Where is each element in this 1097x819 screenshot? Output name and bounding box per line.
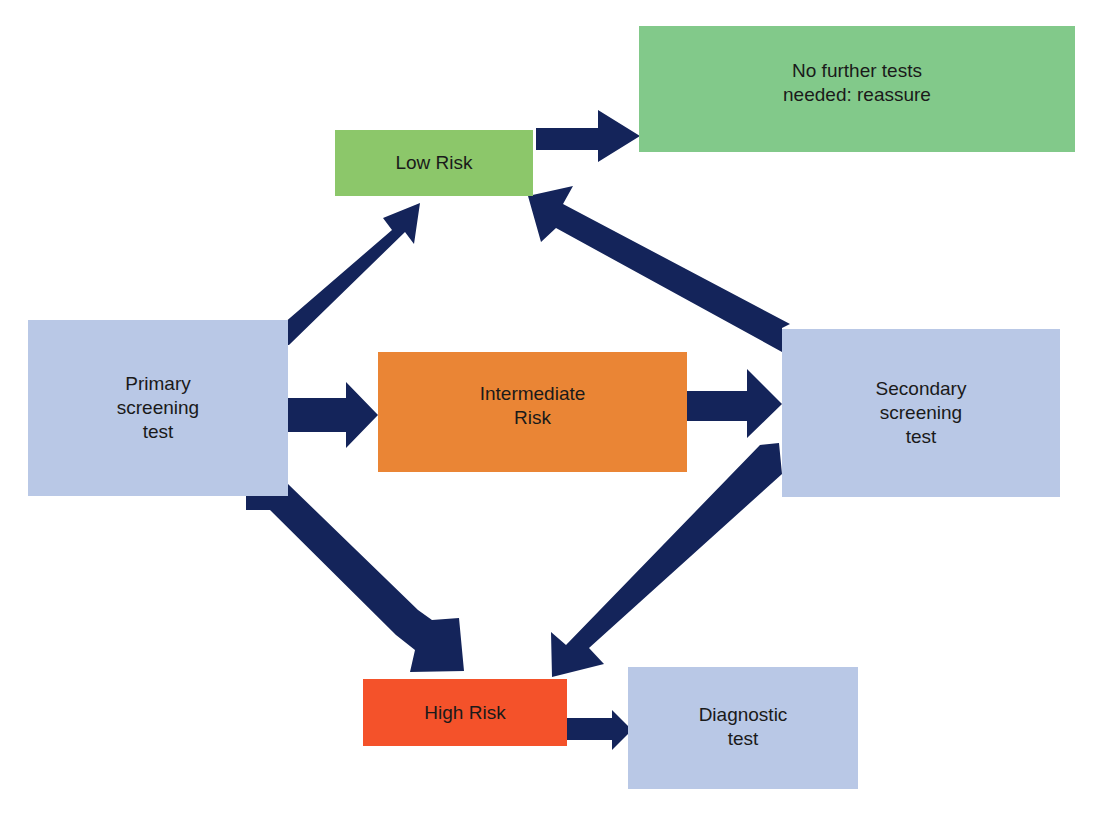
arrow-low-risk-to-reassure (536, 110, 640, 162)
node-intermediate-risk: Intermediate Risk (378, 352, 687, 472)
arrow-primary-to-low-risk (276, 203, 420, 345)
arrow-primary-to-high-risk (246, 484, 464, 672)
node-diagnostic-test-label: Diagnostic test (699, 703, 788, 751)
node-diagnostic-test: Diagnostic test (628, 667, 858, 789)
node-high-risk: High Risk (363, 679, 567, 746)
arrow-secondary-to-low-risk (528, 186, 790, 352)
node-high-risk-label: High Risk (424, 701, 505, 725)
node-primary-screening-test-label: Primary screening test (117, 372, 199, 444)
node-no-further-tests: No further tests needed: reassure (639, 26, 1075, 152)
node-primary-screening-test: Primary screening test (28, 320, 288, 496)
screening-flow-diagram: Low Risk No further tests needed: reassu… (0, 0, 1097, 819)
arrow-high-risk-to-diagnostic (567, 710, 632, 750)
node-intermediate-risk-label: Intermediate Risk (480, 382, 586, 430)
node-low-risk: Low Risk (335, 130, 533, 196)
node-secondary-screening-test: Secondary screening test (782, 329, 1060, 497)
node-secondary-screening-test-label: Secondary screening test (876, 377, 967, 449)
arrow-intermediate-to-secondary (687, 369, 782, 438)
arrow-secondary-to-high-risk (551, 443, 782, 677)
arrow-primary-to-intermediate (288, 382, 378, 448)
node-no-further-tests-label: No further tests needed: reassure (783, 59, 931, 107)
node-low-risk-label: Low Risk (395, 151, 472, 175)
